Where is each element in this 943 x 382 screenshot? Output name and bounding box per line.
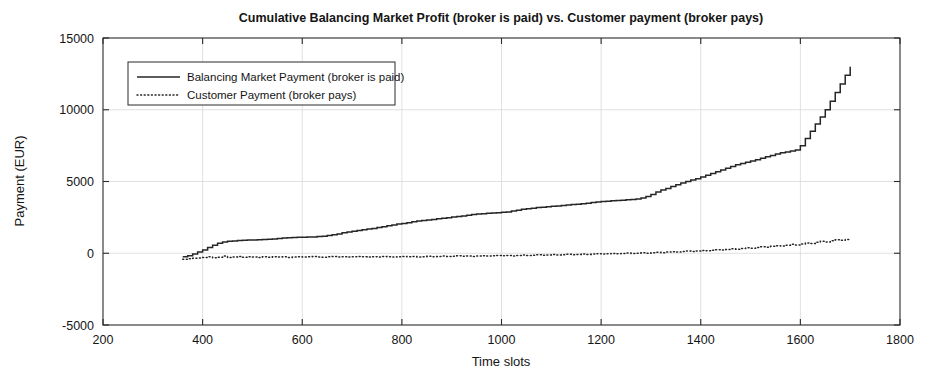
x-tick-label: 1600 <box>786 333 814 347</box>
cumulative-payment-chart: Cumulative Balancing Market Profit (brok… <box>0 0 943 382</box>
x-tick-label: 600 <box>292 333 313 347</box>
y-axis-label: Payment (EUR) <box>12 135 27 226</box>
x-tick-label: 800 <box>391 333 412 347</box>
legend-label-balancing-market-payment: Balancing Market Payment (broker is paid… <box>187 71 404 83</box>
x-tick-label: 200 <box>93 333 114 347</box>
x-axis-label: Time slots <box>472 354 531 369</box>
y-tick-label: 15000 <box>59 32 94 46</box>
x-tick-label: 400 <box>192 333 213 347</box>
x-tick-label: 1800 <box>886 333 914 347</box>
y-tick-label: -5000 <box>62 319 94 333</box>
x-tick-label: 1000 <box>488 333 516 347</box>
chart-title: Cumulative Balancing Market Profit (brok… <box>239 11 763 25</box>
chart-legend[interactable]: Balancing Market Payment (broker is paid… <box>128 62 404 105</box>
legend-label-customer-payment: Customer Payment (broker pays) <box>187 89 357 101</box>
y-tick-label: 10000 <box>59 103 94 117</box>
chart-figure: Cumulative Balancing Market Profit (brok… <box>0 0 943 382</box>
y-tick-label: 5000 <box>66 175 94 189</box>
series-line-customer-payment <box>183 239 850 260</box>
y-tick-label: 0 <box>87 247 94 261</box>
x-tick-label: 1200 <box>587 333 615 347</box>
x-tick-label: 1400 <box>687 333 715 347</box>
